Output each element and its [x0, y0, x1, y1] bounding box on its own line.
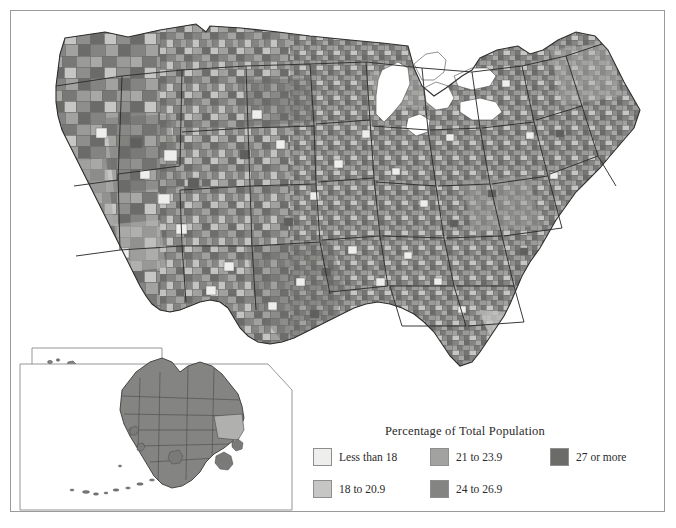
legend-swatch-27-or-more — [550, 448, 569, 466]
map-legend: Percentage of Total Population Less than… — [300, 424, 630, 510]
legend-label-18-to-20-9: 18 to 20.9 — [339, 483, 385, 495]
legend-item-27-or-more: 27 or more — [550, 448, 626, 466]
legend-item-less-than-18: Less than 18 — [313, 448, 397, 466]
figure-page: Percentage of Total Population Less than… — [0, 0, 676, 528]
legend-label-21-to-23-9: 21 to 23.9 — [456, 451, 502, 463]
legend-label-less-than-18: Less than 18 — [339, 451, 397, 463]
legend-swatch-24-to-26-9 — [430, 480, 449, 498]
legend-swatch-21-to-23-9 — [430, 448, 449, 466]
legend-label-24-to-26-9: 24 to 26.9 — [456, 483, 502, 495]
legend-item-24-to-26-9: 24 to 26.9 — [430, 480, 502, 498]
legend-label-27-or-more: 27 or more — [576, 451, 626, 463]
legend-item-21-to-23-9: 21 to 23.9 — [430, 448, 502, 466]
legend-swatch-18-to-20-9 — [313, 480, 332, 498]
legend-title: Percentage of Total Population — [300, 424, 630, 439]
legend-item-18-to-20-9: 18 to 20.9 — [313, 480, 385, 498]
legend-swatch-less-than-18 — [313, 448, 332, 466]
